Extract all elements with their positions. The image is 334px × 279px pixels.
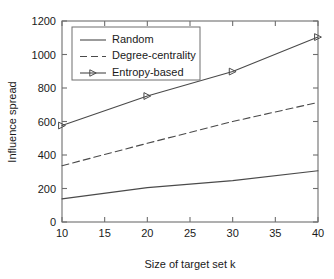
x-tick-label: 40 — [312, 227, 324, 239]
series-line-0 — [62, 171, 318, 199]
y-tick-label: 1000 — [32, 49, 56, 61]
y-tick-label: 400 — [38, 149, 56, 161]
chart-legend: RandomDegree-centralityEntropy-based — [72, 27, 200, 80]
legend-label-2: Entropy-based — [112, 66, 184, 78]
x-tick-label: 15 — [99, 227, 111, 239]
legend-label-1: Degree-centrality — [112, 49, 196, 61]
x-tick-label: 30 — [227, 227, 239, 239]
x-tick-label: 25 — [184, 227, 196, 239]
y-tick-label: 1200 — [32, 15, 56, 27]
influence-spread-line-chart: 020040060080010001200 10152025303540 Siz… — [0, 0, 334, 279]
x-axis-title: Size of target set k — [144, 258, 236, 270]
y-tick-label: 600 — [38, 116, 56, 128]
y-tick-label: 200 — [38, 183, 56, 195]
chart-figure: 020040060080010001200 10152025303540 Siz… — [0, 0, 334, 279]
legend-label-0: Random — [112, 33, 154, 45]
y-tick-label: 800 — [38, 82, 56, 94]
x-tick-label: 20 — [141, 227, 153, 239]
y-axis-title: Influence spread — [6, 81, 18, 162]
x-tick-label: 35 — [269, 227, 281, 239]
x-tick-label: 10 — [56, 227, 68, 239]
